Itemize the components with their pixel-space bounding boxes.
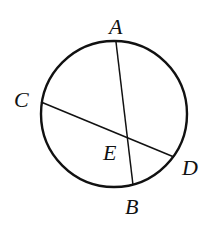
label-point-d: D: [181, 155, 198, 180]
label-point-a: A: [107, 14, 123, 39]
label-point-b: B: [125, 194, 138, 219]
circle-chords-diagram: A C E D B: [0, 0, 211, 226]
chord-ab: [116, 42, 133, 185]
diagram-canvas: A C E D B: [0, 0, 211, 226]
label-point-c: C: [14, 87, 29, 112]
label-point-e: E: [102, 140, 117, 165]
circle: [41, 41, 187, 187]
